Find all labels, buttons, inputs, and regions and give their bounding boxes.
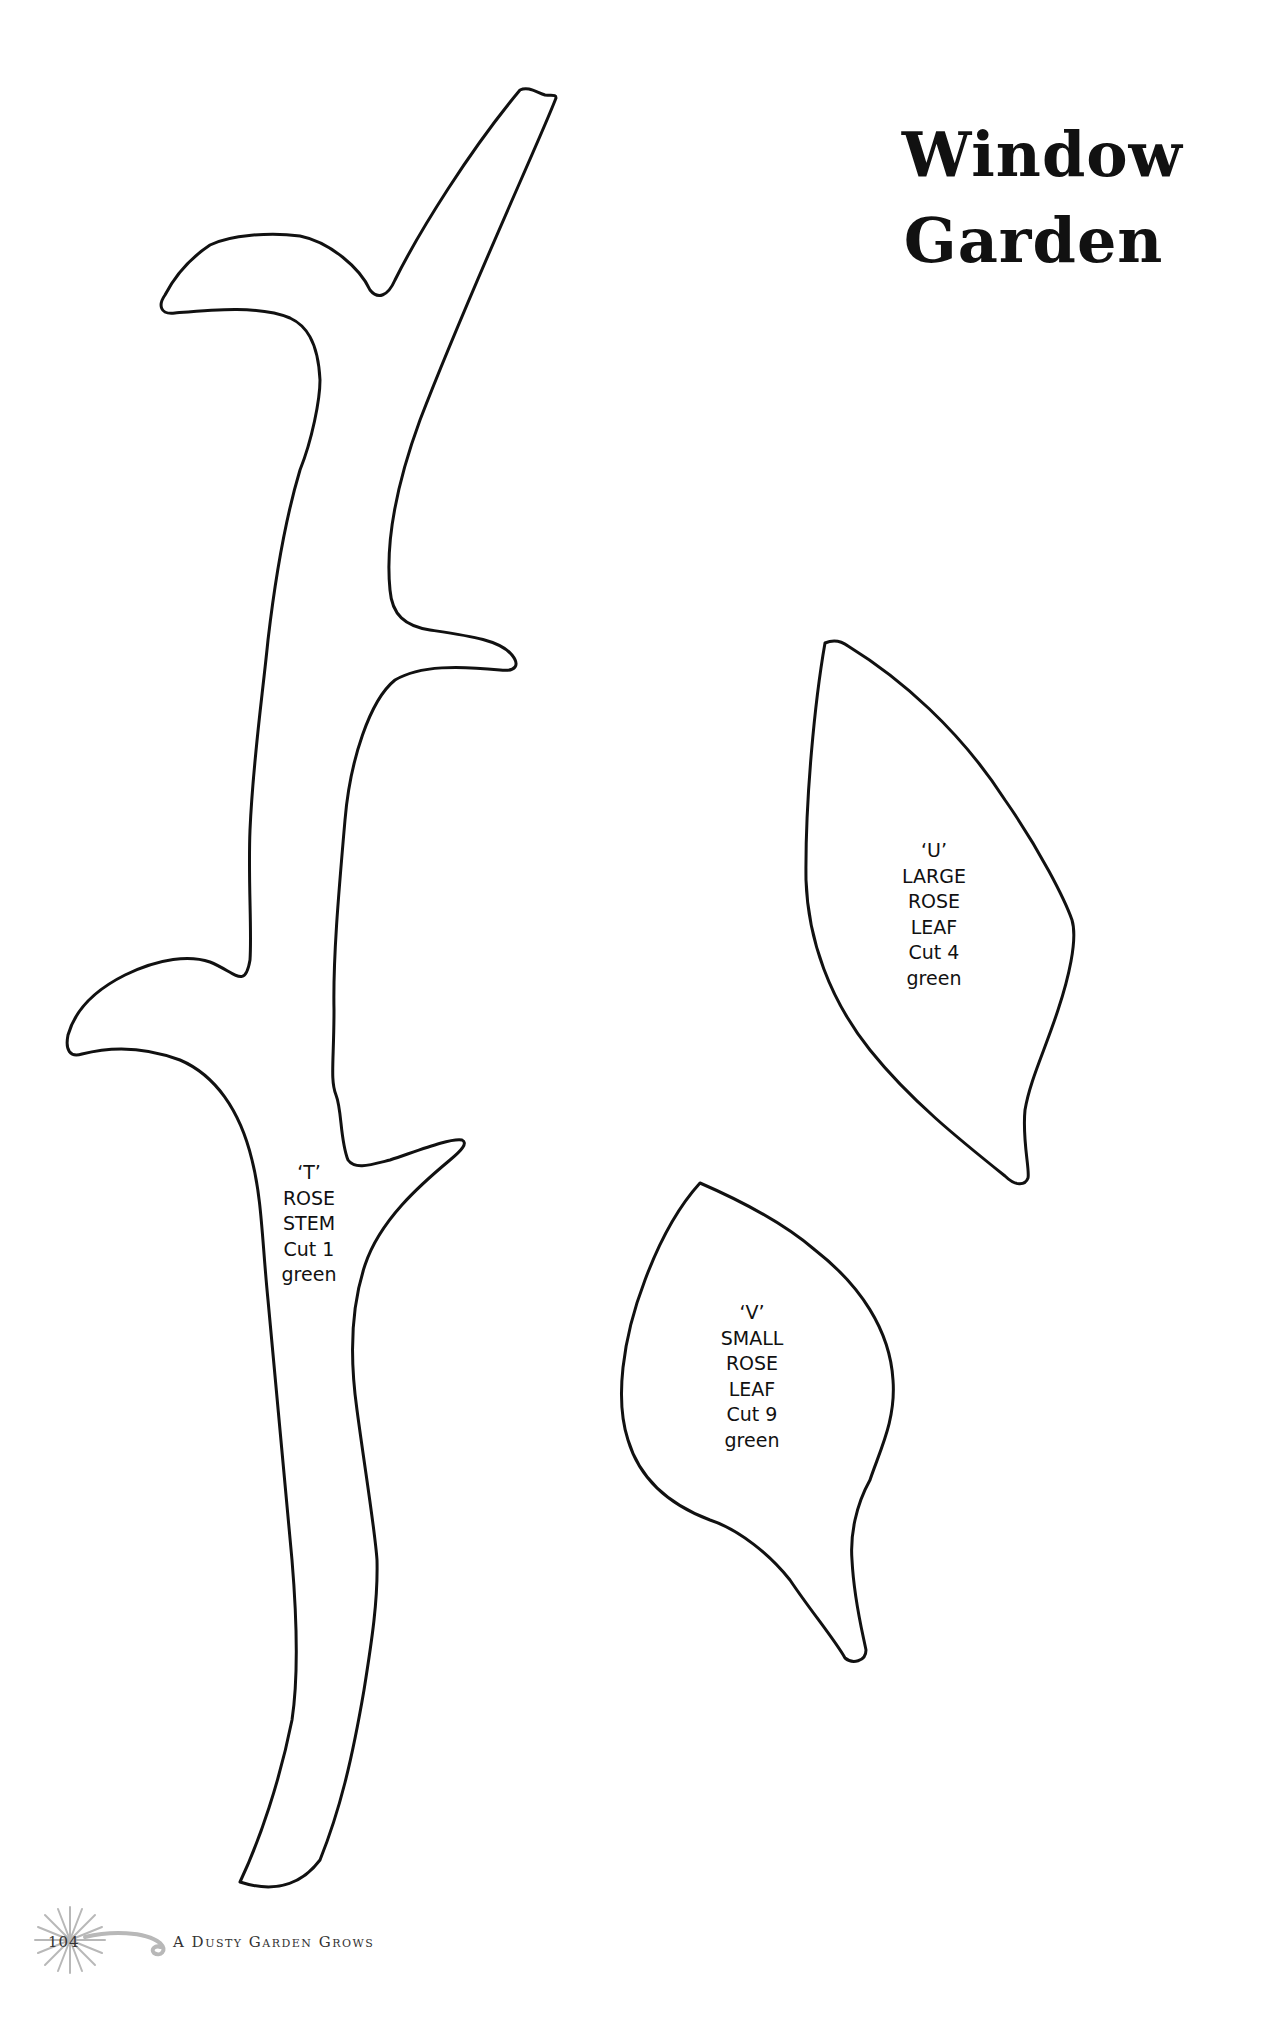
page-footer: 104 A Dusty Garden Grows (30, 1905, 450, 1965)
pattern-name-line: LEAF (721, 1377, 784, 1403)
pattern-name-line: ROSE (902, 889, 966, 915)
pattern-page: Window Garden ‘T’ ROSE STEM Cut 1 green … (0, 0, 1275, 2027)
pattern-cut-count: Cut 1 (282, 1237, 337, 1263)
pattern-name-line: ROSE (282, 1186, 337, 1212)
pattern-name-line: STEM (282, 1211, 337, 1237)
pattern-cut-count: Cut 9 (721, 1402, 784, 1428)
pattern-name-line: SMALL (721, 1326, 784, 1352)
pattern-label-v: ‘V’ SMALL ROSE LEAF Cut 9 green (721, 1300, 784, 1453)
book-title: A Dusty Garden Grows (173, 1933, 374, 1951)
page-number: 104 (48, 1933, 80, 1951)
pattern-label-t: ‘T’ ROSE STEM Cut 1 green (282, 1160, 337, 1288)
pattern-name-line: ROSE (721, 1351, 784, 1377)
pattern-letter: ‘V’ (721, 1300, 784, 1326)
pattern-outlines (0, 0, 1275, 2027)
pattern-name-line: LEAF (902, 915, 966, 941)
pattern-letter: ‘T’ (282, 1160, 337, 1186)
pattern-cut-count: Cut 4 (902, 940, 966, 966)
pattern-color: green (902, 966, 966, 992)
pattern-name-line: LARGE (902, 864, 966, 890)
pattern-letter: ‘U’ (902, 838, 966, 864)
rose-stem-outline (67, 89, 556, 1887)
pattern-color: green (721, 1428, 784, 1454)
pattern-label-u: ‘U’ LARGE ROSE LEAF Cut 4 green (902, 838, 966, 991)
pattern-color: green (282, 1262, 337, 1288)
